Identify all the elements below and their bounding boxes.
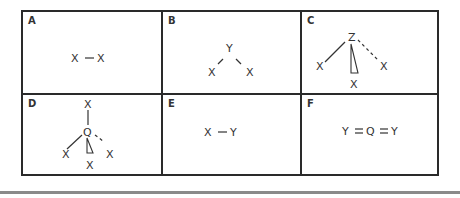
atom-q-center: Q	[366, 125, 375, 138]
atom-x-right: X	[97, 52, 105, 65]
wedge-bond-bottom	[351, 44, 358, 73]
atom-x-bottom: X	[350, 78, 358, 91]
diagram-f: Y Q Y	[302, 95, 439, 176]
dashed-bond-right	[358, 40, 379, 61]
molecule-geometry-grid: A X X B Y X X C Z X X X D	[21, 10, 439, 176]
atom-x-left: X	[204, 126, 212, 139]
bond-left	[218, 59, 223, 64]
bottom-rule	[0, 191, 460, 194]
atom-y-right: Y	[229, 126, 237, 139]
atom-x-left: X	[316, 60, 324, 73]
panel-a: A X X	[23, 12, 162, 94]
atom-y-right: Y	[390, 125, 398, 138]
panel-e: E X Y	[163, 95, 301, 176]
atom-q-center: Q	[83, 126, 92, 139]
atom-x-left: X	[208, 66, 216, 79]
bond-left	[67, 135, 82, 149]
atom-x-bottom: X	[86, 159, 94, 172]
wedge-bond-bottom	[87, 138, 93, 153]
diagram-c: Z X X X	[302, 12, 439, 94]
diagram-d: X Q X X X	[23, 95, 162, 176]
bond-right	[236, 59, 241, 64]
atom-x-left: X	[62, 148, 70, 161]
dashed-bond-right	[95, 135, 103, 141]
atom-z-center: Z	[348, 31, 356, 44]
atom-y-center: Y	[225, 42, 233, 55]
atom-x-right: X	[106, 148, 114, 161]
atom-y-left: Y	[341, 125, 349, 138]
panel-c: C Z X X X	[302, 12, 439, 94]
diagram-e: X Y	[163, 95, 301, 176]
panel-b: B Y X X	[163, 12, 301, 94]
diagram-b: Y X X	[163, 12, 301, 94]
atom-x-right: X	[246, 66, 254, 79]
atom-x-top: X	[84, 98, 92, 111]
atom-x-left: X	[71, 52, 79, 65]
panel-d: D X Q X X X	[23, 95, 162, 176]
atom-x-right: X	[380, 60, 388, 73]
bond-left	[325, 42, 345, 62]
panel-f: F Y Q Y	[302, 95, 439, 176]
diagram-a: X X	[23, 12, 162, 94]
